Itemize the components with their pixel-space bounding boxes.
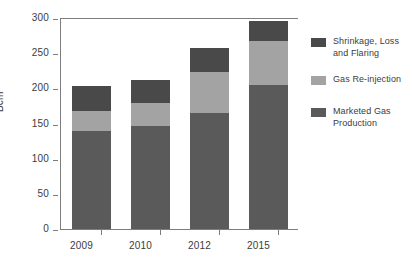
segment-gas-re-injection [190, 72, 229, 113]
x-tick-mark [219, 230, 220, 235]
legend-swatch-icon [311, 108, 326, 117]
legend-label: Shrinkage, Loss and Flaring [333, 36, 411, 59]
y-tick-label: 50 [37, 188, 49, 199]
y-tick-label: 150 [32, 118, 49, 129]
y-tick-label: 0 [43, 223, 49, 234]
y-tick-mark [53, 195, 58, 196]
segment-gas-re-injection [131, 103, 170, 126]
y-tick-label: 250 [32, 47, 49, 58]
segment-marketed-gas-production [249, 85, 288, 229]
segment-marketed-gas-production [131, 126, 170, 229]
stacked-bar-chart: 0 50 100 150 200 250 300 Bcm [0, 0, 413, 264]
y-tick-label: 100 [32, 153, 49, 164]
bar-stack [131, 80, 170, 229]
bars-layer [60, 18, 298, 229]
segment-shrinkage-loss-flaring [72, 86, 111, 111]
bar-2009 [72, 18, 111, 229]
x-label-2015: 2015 [229, 240, 288, 251]
bar-2012 [190, 18, 229, 229]
segment-shrinkage-loss-flaring [249, 21, 288, 41]
y-tick-label: 200 [32, 82, 49, 93]
legend-label: Gas Re-injection [333, 74, 401, 86]
x-label-2009: 2009 [52, 240, 111, 251]
legend-label: Marketed Gas Production [333, 106, 411, 129]
segment-shrinkage-loss-flaring [131, 80, 170, 103]
segment-gas-re-injection [72, 111, 111, 131]
y-tick-mark [53, 160, 58, 161]
x-tick-mark [101, 230, 102, 235]
legend-swatch-icon [311, 38, 326, 47]
legend-swatch-icon [311, 76, 326, 85]
y-axis-title: Bcm [0, 91, 5, 112]
bar-stack [249, 21, 288, 229]
legend-entry-marketed-gas-production: Marketed Gas Production [311, 106, 411, 129]
y-tick-mark [53, 89, 58, 90]
y-tick-mark [53, 19, 58, 20]
legend-entry-shrinkage-loss-flaring: Shrinkage, Loss and Flaring [311, 36, 411, 59]
legend-entry-gas-re-injection: Gas Re-injection [311, 74, 401, 86]
y-tick-mark [53, 54, 58, 55]
x-tick-mark [278, 230, 279, 235]
x-label-2010: 2010 [111, 240, 170, 251]
segment-shrinkage-loss-flaring [190, 48, 229, 73]
y-tick-label: 300 [32, 12, 49, 23]
y-tick-mark [53, 230, 58, 231]
bar-2010 [131, 18, 170, 229]
segment-marketed-gas-production [190, 113, 229, 229]
x-label-2012: 2012 [170, 240, 229, 251]
x-tick-mark [160, 230, 161, 235]
bar-stack [72, 86, 111, 229]
y-tick-mark [53, 125, 58, 126]
bar-2015 [249, 18, 288, 229]
segment-gas-re-injection [249, 41, 288, 85]
bar-stack [190, 48, 229, 229]
segment-marketed-gas-production [72, 131, 111, 229]
